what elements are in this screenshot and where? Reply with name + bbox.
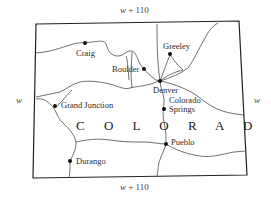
city-label-boulder: Boulder: [112, 65, 139, 74]
greeley-dot: [168, 52, 172, 56]
city-label-durango: Durango: [76, 157, 106, 166]
colorado-springs-dot: [162, 107, 166, 111]
boulder-dot: [142, 67, 146, 71]
durango-dot: [68, 159, 72, 163]
denver-dot: [158, 79, 162, 83]
city-label-pueblo: Pueblo: [171, 138, 195, 147]
city-label-springs: Springs: [169, 105, 195, 114]
colorado-map: [0, 0, 271, 202]
city-label-denver: Denver: [153, 86, 178, 95]
craig-dot: [83, 41, 87, 45]
state-name: C O L O R A D O: [76, 119, 271, 132]
dimension-top: w + 110: [120, 6, 149, 15]
city-label-craig: Craig: [76, 49, 95, 58]
dimension-left: w: [16, 96, 22, 105]
dimension-right: w: [254, 96, 260, 105]
dimension-bottom: w + 110: [120, 183, 149, 192]
city-label-greeley: Greeley: [163, 42, 190, 51]
grand-junction-dot: [53, 104, 57, 108]
pueblo-dot: [164, 142, 168, 146]
city-label-grand-junction: Grand Junction: [61, 101, 113, 110]
